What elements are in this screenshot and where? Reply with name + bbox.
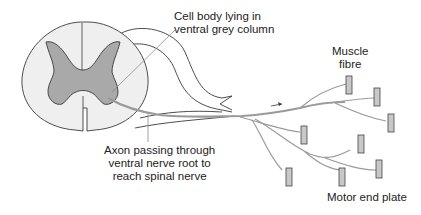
muscle-fibres: [286, 76, 394, 186]
muscle-line-1: Muscle: [332, 45, 368, 58]
label-muscle-fibre: Muscle fibre: [332, 45, 368, 71]
muscle-line-2: fibre: [332, 58, 368, 71]
label-cell-body: Cell body lying in ventral grey column: [174, 10, 274, 36]
axon-line-1: Axon passing through: [104, 144, 215, 157]
axon-line-2: ventral nerve root to: [104, 157, 215, 170]
label-motor-end-plate: Motor end plate: [327, 191, 407, 204]
cell-body-line-2: ventral grey column: [174, 23, 274, 36]
label-axon: Axon passing through ventral nerve root …: [104, 144, 215, 183]
motor-neuron-diagram: Cell body lying in ventral grey column A…: [0, 0, 421, 215]
axon-branches: [240, 84, 386, 170]
axon-line-3: reach spinal nerve: [104, 170, 215, 183]
cell-body-line-1: Cell body lying in: [174, 10, 274, 23]
